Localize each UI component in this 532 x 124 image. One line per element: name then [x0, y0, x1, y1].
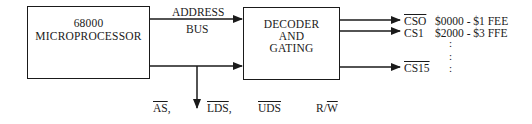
ellipsis-dot-2: : [449, 51, 452, 62]
and-label: AND [244, 30, 339, 42]
cpu-model-label: 68000 [28, 17, 149, 29]
cs1-signal-label: CS1 [404, 27, 424, 39]
ellipsis-dot-3: : [449, 63, 452, 74]
uds-signal: UDS [258, 102, 281, 114]
decoder-box: DECODER AND GATING [243, 7, 340, 80]
microprocessor-box: 68000 MICROPROCESSOR [27, 6, 150, 79]
cs15-signal-label: CS15 [404, 62, 430, 74]
ellipsis-dot-1: : [449, 38, 452, 49]
cs1-address-range: $2000 - $3 FFE [435, 27, 508, 39]
bus-label: BUS [186, 23, 208, 35]
as-signal: AS, [153, 102, 171, 114]
address-bus-label: ADDRESS [172, 6, 224, 18]
cs0-signal-label: CSO [404, 15, 426, 27]
decoder-label: DECODER [244, 18, 339, 30]
lds-signal: LDS, [207, 102, 232, 114]
gating-label: GATING [244, 42, 339, 54]
read-write-signal: R/W [316, 102, 338, 114]
cpu-type-label: MICROPROCESSOR [28, 30, 149, 42]
cs0-address-range: $0000 - $1 FEE [435, 15, 508, 27]
